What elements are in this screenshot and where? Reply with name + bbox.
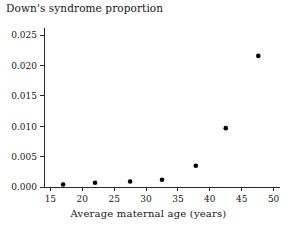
y-tick-label: 0.000 [11,182,37,192]
x-tick-label: 20 [77,194,89,204]
x-tick-label: 30 [140,194,152,204]
y-tick-label: 0.020 [11,61,37,71]
data-point [128,179,133,184]
y-tick-label: 0.015 [11,91,37,101]
y-tick-label: 0.010 [11,122,37,132]
x-tick-label: 15 [45,194,57,204]
x-tick-label: 45 [236,194,248,204]
data-points-layer [61,54,261,187]
data-point [160,177,165,182]
data-point [223,126,228,131]
data-point [256,54,261,59]
y-tick-label: 0.005 [11,152,37,162]
data-point [61,182,66,187]
y-tick-label: 0.025 [11,30,37,40]
x-axis-label: Average maternal age (years) [0,208,297,219]
data-point [93,180,98,185]
scatter-plot: 0.0000.0050.0100.0150.0200.025 152025303… [0,0,297,230]
chart-figure: Down's syndrome proportion 0.0000.0050.0… [0,0,297,230]
x-tick-label: 40 [204,194,216,204]
data-point [194,163,199,168]
x-axis: 1520253035404550 [44,187,280,204]
x-tick-label: 25 [108,194,120,204]
y-axis: 0.0000.0050.0100.0150.0200.025 [11,28,44,192]
x-tick-label: 35 [172,194,184,204]
x-tick-label: 50 [268,194,280,204]
